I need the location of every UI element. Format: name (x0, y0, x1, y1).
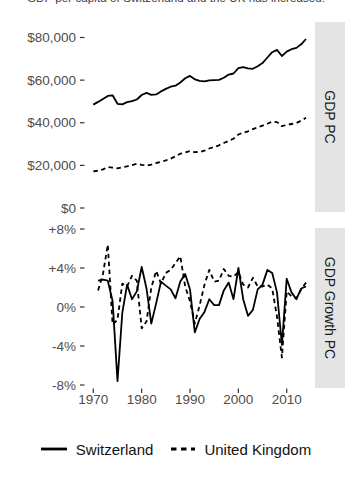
x-axis-tick-label: 1990 (175, 392, 205, 407)
facet-strip-label: GDP Growth PC (322, 257, 338, 359)
series-line-switzerland (98, 267, 306, 381)
legend: Switzerland United Kingdom (0, 436, 352, 462)
y-axis-tick-label: -8% (52, 378, 76, 393)
y-axis-tick-label: +8% (49, 222, 76, 237)
legend-label: Switzerland (76, 441, 154, 458)
y-axis-tick-label: $60,000 (27, 73, 76, 88)
facet-panel: GDP PC$80,000$60,000$40,000$20,000$0 (27, 22, 345, 216)
y-axis-tick-label: +4% (49, 261, 76, 276)
y-axis-tick-label: -4% (52, 339, 76, 354)
x-axis-tick-label: 2010 (272, 392, 302, 407)
chart-screen: GDP per capita of Switzerland and the UK… (0, 0, 352, 482)
y-axis-tick-label: $80,000 (27, 30, 76, 45)
solid-line-key-icon (41, 446, 67, 452)
legend-item-switzerland: Switzerland (41, 441, 154, 458)
y-axis-tick-label: $0 (61, 201, 76, 216)
dashed-line-key-icon (171, 446, 195, 452)
series-line-switzerland (93, 39, 306, 105)
legend-item-united-kingdom: United Kingdom (171, 441, 311, 458)
y-axis-tick-label: 0% (56, 300, 76, 315)
y-axis-tick-label: $20,000 (27, 158, 76, 173)
facet-panel: GDP Growth PC+8%+4%0%-4%-8% (49, 222, 345, 393)
series-line-united-kingdom (98, 245, 306, 358)
legend-label: United Kingdom (204, 441, 311, 458)
x-axis-tick-label: 1980 (127, 392, 157, 407)
y-axis-tick-label: $40,000 (27, 115, 76, 130)
facet-strip-label: GDP PC (322, 90, 338, 143)
x-axis-tick-label: 2000 (223, 392, 253, 407)
series-line-united-kingdom (93, 118, 306, 172)
x-axis-tick-label: 1970 (78, 392, 108, 407)
gdp-facet-chart: GDP PC$80,000$60,000$40,000$20,000$0GDP … (0, 0, 352, 412)
